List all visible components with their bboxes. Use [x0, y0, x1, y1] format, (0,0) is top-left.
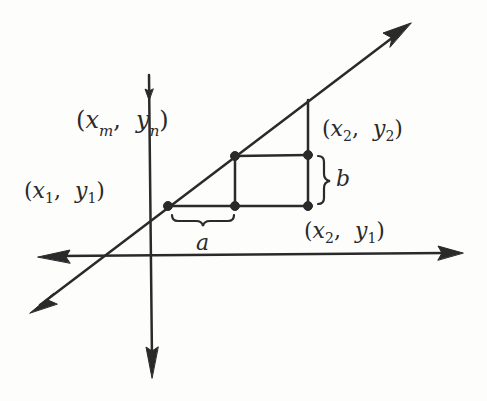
label-x-sub: 2 [343, 128, 352, 144]
label-point2: (x2, y2) [322, 118, 403, 143]
diagram-canvas: (xm, yn) (x1, y1) (x2, y2) (x2, y1) a b [0, 0, 487, 401]
label-rise-b: b [336, 168, 350, 190]
point-mid-bottom [231, 202, 240, 211]
label-x: x [85, 106, 99, 134]
label-y-sub: 1 [87, 190, 96, 206]
y-axis-bottom-arrow-icon [146, 347, 158, 378]
open-paren: ( [304, 218, 313, 243]
x-axis-right-arrow-icon [438, 246, 463, 260]
label-y-sub: 1 [367, 230, 376, 246]
label-point3: (x2, y1) [304, 220, 385, 245]
open-paren: ( [24, 178, 33, 203]
label-y: y [355, 218, 367, 243]
x-axis [60, 253, 445, 256]
label-y: y [75, 178, 87, 203]
label-midpoint: (xm, yn) [76, 108, 169, 139]
close-paren: ) [159, 106, 168, 134]
label-run-a: a [196, 232, 209, 254]
line-upper-arrow-icon [383, 23, 411, 47]
comma: , [352, 116, 359, 141]
comma: , [113, 106, 121, 134]
point-x1-y1 [164, 202, 173, 211]
label-y: y [373, 116, 385, 141]
open-paren: ( [322, 116, 331, 141]
label-x-sub: 2 [325, 230, 334, 246]
label-y-sub: n [150, 122, 160, 140]
close-paren: ) [376, 218, 385, 243]
brace-a-icon [172, 215, 234, 226]
close-paren: ) [96, 178, 105, 203]
close-paren: ) [394, 116, 403, 141]
label-x-sub: m [99, 122, 113, 140]
point-x2-y1 [304, 202, 313, 211]
x-axis-left-arrow-icon [38, 250, 70, 263]
brace-b-icon [318, 156, 330, 204]
label-x-sub: 1 [45, 190, 54, 206]
label-x: x [33, 178, 45, 203]
rect-top-edge [235, 155, 308, 156]
point-x2-y2 [304, 151, 313, 160]
point-xm-yn [231, 152, 240, 161]
label-x: x [313, 218, 325, 243]
open-paren: ( [76, 106, 85, 134]
y-axis-top-arrow-icon [145, 89, 153, 100]
label-y-sub: 2 [385, 128, 394, 144]
comma: , [334, 218, 341, 243]
comma: , [54, 178, 61, 203]
label-y: y [136, 106, 150, 134]
label-point1: (x1, y1) [24, 180, 105, 205]
label-x: x [331, 116, 343, 141]
